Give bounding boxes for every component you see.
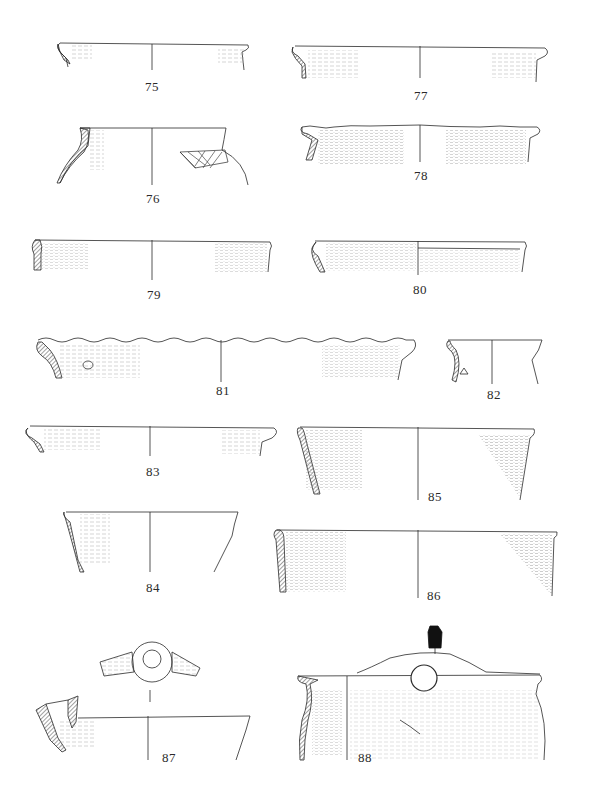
figure-label-84: 84 bbox=[146, 580, 160, 596]
figure-83 bbox=[26, 426, 277, 456]
figure-81 bbox=[37, 338, 416, 382]
figure-87 bbox=[36, 696, 250, 760]
figure-82 bbox=[447, 340, 542, 384]
figure-77 bbox=[292, 46, 548, 82]
pottery-plate: 75 76 77 78 79 80 81 82 83 84 85 86 87 8… bbox=[0, 0, 589, 793]
figure-label-87: 87 bbox=[162, 750, 176, 766]
figure-80 bbox=[312, 241, 527, 275]
figure-label-78: 78 bbox=[414, 168, 428, 184]
figure-label-83: 83 bbox=[146, 464, 160, 480]
figure-88 bbox=[298, 626, 545, 760]
figure-label-81: 81 bbox=[216, 383, 230, 399]
figure-78 bbox=[301, 125, 540, 164]
figure-label-79: 79 bbox=[147, 287, 161, 303]
figure-86 bbox=[274, 530, 557, 598]
figure-label-75: 75 bbox=[145, 79, 159, 95]
figure-79 bbox=[32, 240, 271, 280]
figure-label-85: 85 bbox=[428, 489, 442, 505]
figure-label-82: 82 bbox=[487, 387, 501, 403]
figure-76 bbox=[57, 128, 248, 185]
figure-label-76: 76 bbox=[146, 191, 160, 207]
figure-75 bbox=[58, 43, 249, 70]
figure-label-77: 77 bbox=[414, 88, 428, 104]
figure-label-80: 80 bbox=[413, 282, 427, 298]
figure-label-86: 86 bbox=[427, 588, 441, 604]
figure-label-88: 88 bbox=[358, 750, 372, 766]
figure-84 bbox=[64, 512, 238, 572]
figure-85 bbox=[297, 427, 534, 500]
figure-87-plan bbox=[100, 642, 200, 702]
